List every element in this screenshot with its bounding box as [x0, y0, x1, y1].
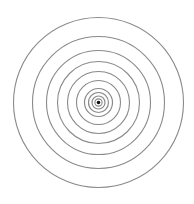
concentric-circles-figure — [0, 0, 194, 204]
concentric-rings-graphic — [0, 0, 194, 204]
center-dot — [97, 101, 101, 105]
